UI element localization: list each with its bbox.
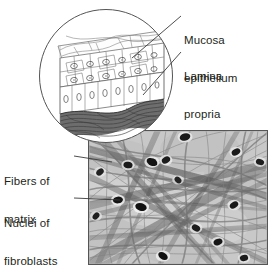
label-fibers-of-matrix-line1: Fibers of (4, 175, 50, 188)
label-nuclei-of-fibroblasts: Nuclei of fibroblasts (4, 192, 58, 275)
label-lamina-propria-line2: propria (184, 108, 222, 121)
label-nuclei-of-fibroblasts-line1: Nuclei of (4, 217, 58, 230)
label-nuclei-of-fibroblasts-line2: fibroblasts (4, 255, 58, 268)
label-lamina-propria: Lamina propria (184, 45, 222, 146)
connective-tissue-micrograph (74, 128, 270, 266)
label-lamina-propria-line1: Lamina (184, 70, 222, 83)
mucosa-histology-figure: Mucosa epithelium Lamina propria Fibers … (0, 0, 270, 275)
circular-inset-epithelium (40, 10, 173, 143)
